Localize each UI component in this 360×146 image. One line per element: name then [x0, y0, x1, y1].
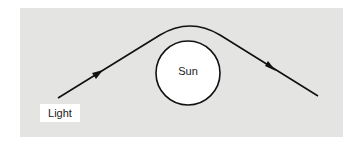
- arrow-icon-incoming: [92, 70, 103, 79]
- light-label: Light: [40, 104, 80, 122]
- arrow-icon-outgoing: [265, 61, 276, 71]
- sun-label: Sun: [168, 65, 208, 77]
